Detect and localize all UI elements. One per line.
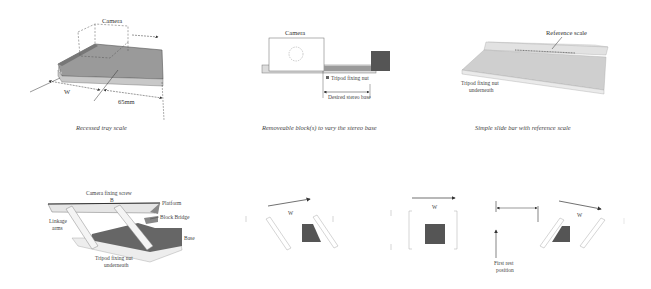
label-tripod-nut-4: Tripod fixing nut bbox=[95, 255, 133, 261]
caption-slide-bar: Simple slide bar with reference scale bbox=[475, 124, 571, 131]
label-tripod-nut: Tripod fixing nut bbox=[331, 75, 369, 81]
removable-strip bbox=[324, 66, 372, 71]
tripod-nut-icon bbox=[326, 76, 329, 79]
block-1 bbox=[302, 224, 321, 242]
label-camera: Camera bbox=[102, 17, 122, 24]
label-position: position bbox=[496, 267, 514, 273]
tray-top bbox=[58, 44, 163, 79]
first-rest-position: First rest position bbox=[494, 201, 538, 273]
label-base: Base bbox=[184, 235, 195, 241]
panel-recessed-tray: Camera W 65mm Recessed tray scale bbox=[30, 17, 164, 131]
arm-right-2 bbox=[454, 211, 457, 249]
platform bbox=[48, 203, 160, 213]
panel-position-2: W bbox=[391, 198, 457, 250]
arm-right-3 bbox=[580, 218, 605, 248]
label-w: W bbox=[64, 88, 71, 95]
label-block-bridge: Block Bridge bbox=[160, 214, 190, 220]
panel-position-1: W bbox=[246, 199, 338, 250]
label-first-rest: First rest bbox=[494, 260, 514, 266]
label-w-3: W bbox=[577, 212, 583, 218]
camera-box bbox=[269, 38, 324, 71]
label-reference-scale: Reference scale bbox=[546, 29, 587, 36]
label-underneath-3: underneath bbox=[469, 87, 494, 93]
panel-slide-bar: Reference scale Tripod fixing nut undern… bbox=[461, 29, 608, 131]
stereo-slide-bar-diagram: Camera W 65mm Recessed tray scale Camera… bbox=[0, 0, 651, 289]
label-65mm: 65mm bbox=[118, 98, 135, 105]
label-platform: Platform bbox=[162, 200, 182, 206]
removable-block bbox=[371, 51, 390, 71]
block-bridge bbox=[144, 216, 158, 224]
label-w-1: W bbox=[288, 210, 294, 216]
arm-right-1 bbox=[313, 215, 338, 248]
caption-recessed-tray: Recessed tray scale bbox=[75, 124, 127, 131]
label-camera-2: Camera bbox=[285, 29, 305, 36]
block-2 bbox=[425, 224, 445, 244]
screw-mark: B bbox=[110, 197, 114, 203]
panel-removable-blocks: Camera Tripod fixing nut Desired stereo … bbox=[261, 29, 390, 132]
label-arms: arms bbox=[52, 225, 63, 231]
label-stereo-base: Desired stereo base bbox=[328, 94, 371, 100]
label-w-2: W bbox=[432, 204, 438, 210]
arm-left-2 bbox=[409, 211, 412, 249]
label-linkage: Linkage bbox=[49, 218, 68, 224]
panel-linkage: Camera fixing screw B Platform Block Bri… bbox=[48, 190, 195, 268]
arm-left-1 bbox=[266, 217, 291, 250]
caption-removable-blocks: Removeable block(s) to vary the stereo b… bbox=[261, 124, 377, 132]
label-camera-screw: Camera fixing screw bbox=[86, 190, 132, 196]
label-tripod-nut-3: Tripod fixing nut bbox=[461, 80, 499, 86]
panel-position-3: W bbox=[540, 201, 624, 248]
label-underneath-4: underneath bbox=[104, 262, 129, 268]
